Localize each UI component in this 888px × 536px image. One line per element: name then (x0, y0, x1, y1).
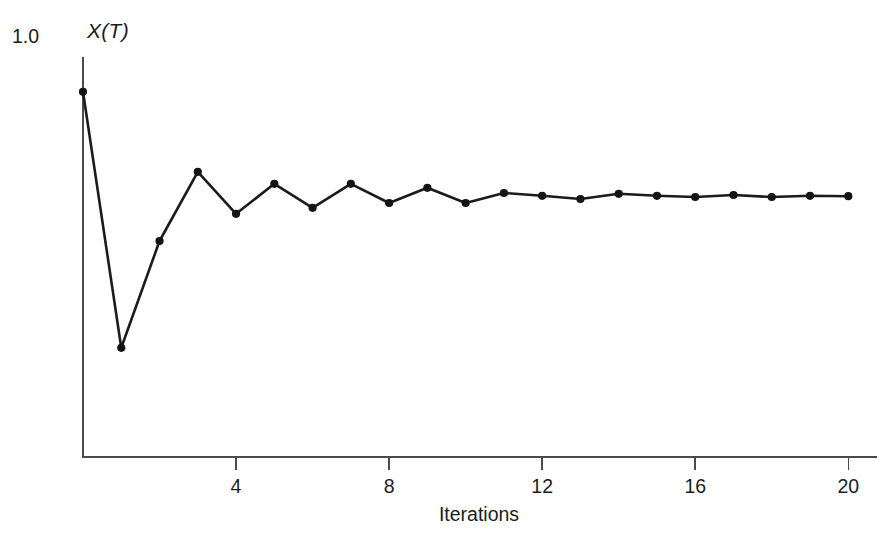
data-point (538, 192, 546, 200)
data-point (194, 168, 202, 176)
data-point (385, 199, 393, 207)
x-tick-label-12: 12 (531, 477, 553, 497)
axis-lines (83, 57, 877, 457)
data-point (155, 237, 163, 245)
plot-area (0, 0, 888, 536)
data-point (79, 88, 87, 96)
data-point (806, 192, 814, 200)
data-point (844, 192, 852, 200)
data-point (576, 195, 584, 203)
axes (83, 57, 877, 457)
data-point (615, 190, 623, 198)
data-point (729, 191, 737, 199)
chart-figure: 1.0 X(T) 48121620 Iterations (0, 0, 888, 536)
x-axis-ticks (236, 457, 848, 470)
data-point (270, 180, 278, 188)
x-axis-title: Iterations (439, 505, 519, 525)
data-point (423, 184, 431, 192)
data-point (347, 180, 355, 188)
series-line-x-of-t (83, 92, 848, 348)
series-markers (79, 88, 853, 352)
data-point (691, 193, 699, 201)
data-point (308, 204, 316, 212)
x-tick-label-16: 16 (684, 477, 706, 497)
x-tick-label-4: 4 (231, 477, 242, 497)
data-point (462, 199, 470, 207)
data-point (653, 192, 661, 200)
x-tick-label-20: 20 (837, 477, 859, 497)
data-point (500, 189, 508, 197)
data-point (232, 210, 240, 218)
data-point (768, 193, 776, 201)
data-series (79, 88, 853, 352)
data-point (117, 344, 125, 352)
x-tick-label-8: 8 (384, 477, 395, 497)
